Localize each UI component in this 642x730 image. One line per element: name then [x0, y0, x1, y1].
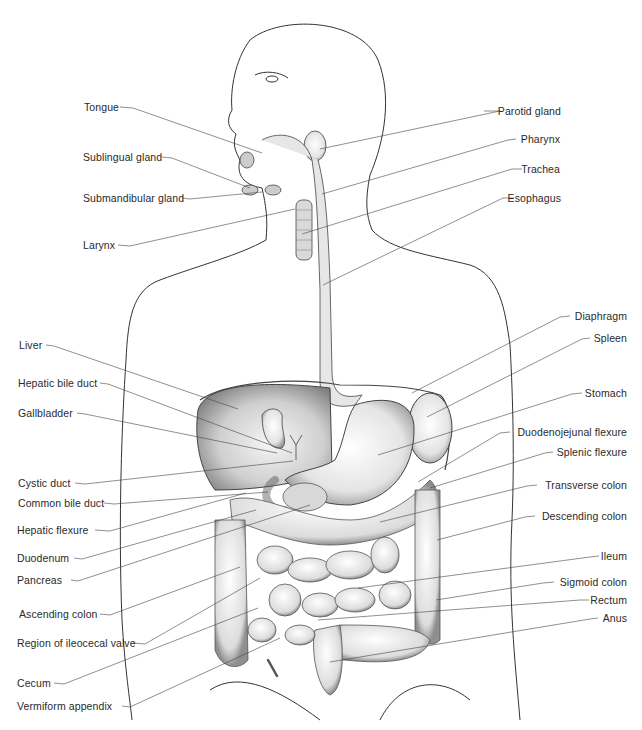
label-ileum: Ileum	[601, 550, 627, 562]
label-pharynx: Pharynx	[521, 133, 560, 145]
label-region-of-ileocecal-valve: Region of ileocecal valve	[17, 637, 136, 649]
spleen-shape	[408, 393, 452, 463]
label-stomach: Stomach	[585, 387, 627, 399]
label-hepatic-flexure: Hepatic flexure	[17, 524, 89, 536]
label-diaphragm: Diaphragm	[575, 310, 627, 322]
label-submandibular-gland: Submandibular gland	[83, 192, 184, 204]
label-rectum: Rectum	[590, 594, 627, 606]
label-gallbladder: Gallbladder	[18, 407, 73, 419]
label-larynx: Larynx	[83, 239, 115, 251]
label-transverse-colon: Transverse colon	[545, 479, 627, 491]
label-pancreas: Pancreas	[17, 574, 62, 586]
label-sublingual-gland: Sublingual gland	[83, 151, 162, 163]
parotid-gland-shape	[304, 131, 326, 161]
label-duodenojejunal-flexure: Duodenojejunal flexure	[517, 426, 627, 438]
label-splenic-flexure: Splenic flexure	[557, 446, 627, 458]
label-tongue: Tongue	[84, 101, 119, 113]
label-descending-colon: Descending colon	[542, 510, 627, 522]
label-parotid-gland: Parotid gland	[498, 105, 561, 117]
label-cystic-duct: Cystic duct	[18, 477, 70, 489]
label-esophagus: Esophagus	[508, 192, 561, 204]
appendix-shape	[268, 660, 277, 676]
label-liver: Liver	[19, 339, 42, 351]
label-hepatic-bile-duct: Hepatic bile duct	[18, 377, 97, 389]
label-spleen: Spleen	[594, 332, 627, 344]
label-common-bile-duct: Common bile duct	[18, 497, 104, 509]
label-anus: Anus	[603, 612, 627, 624]
label-vermiform-appendix: Vermiform appendix	[17, 700, 112, 712]
label-cecum: Cecum	[17, 677, 51, 689]
throat	[240, 135, 362, 406]
label-trachea: Trachea	[521, 163, 560, 175]
label-sigmoid-colon: Sigmoid colon	[560, 576, 627, 588]
label-ascending-colon: Ascending colon	[19, 608, 98, 620]
label-duodenum: Duodenum	[17, 552, 69, 564]
